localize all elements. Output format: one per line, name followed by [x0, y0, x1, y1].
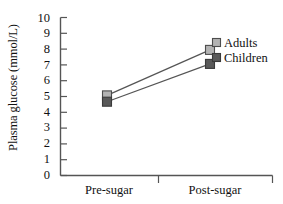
- series-line-children: [107, 64, 210, 102]
- plot-area: [0, 0, 283, 204]
- x-axis: [61, 176, 273, 184]
- x-tick-label-post-sugar: Post-sugar: [172, 183, 258, 198]
- y-axis: [61, 18, 68, 176]
- legend-label-children: Children: [224, 51, 268, 66]
- data-point-children-pre: [103, 97, 112, 106]
- series-line-adults: [107, 50, 210, 96]
- legend-marker-children: [213, 54, 221, 62]
- legend-marker-adults: [213, 39, 221, 47]
- legend-label-adults: Adults: [224, 36, 257, 51]
- x-tick-label-pre-sugar: Pre-sugar: [70, 183, 148, 198]
- chart-container: Plasma glucose (mmol/L) 10 9 8 7 6 5 4 3…: [0, 0, 283, 204]
